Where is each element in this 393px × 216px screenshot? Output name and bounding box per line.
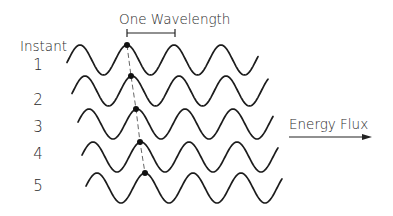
- crest-marker-2: [128, 73, 134, 79]
- wave-diagram: One Wavelength Instant 1 2 3 4 5 Energy …: [0, 0, 393, 216]
- crest-marker-1: [124, 42, 130, 48]
- instant-label-2: 2: [33, 91, 43, 109]
- wave-instant-4: [82, 142, 278, 172]
- right-arrow-icon: [289, 134, 372, 140]
- wavelength-bar: [127, 29, 175, 37]
- crest-markers: [124, 42, 148, 176]
- instant-label-3: 3: [33, 118, 43, 136]
- wave-instant-3: [78, 109, 273, 139]
- crest-marker-3: [133, 106, 139, 112]
- energy-flux-label: Energy Flux: [289, 116, 368, 132]
- waves-group: [67, 45, 282, 203]
- wave-instant-1: [67, 45, 258, 75]
- crest-marker-4: [137, 139, 143, 145]
- wave-instant-5: [86, 173, 282, 203]
- instant-label-4: 4: [33, 145, 43, 163]
- wave-instant-2: [72, 76, 268, 106]
- instant-label-1: 1: [33, 56, 43, 74]
- wavelength-label: One Wavelength: [119, 11, 230, 27]
- instant-axis-label: Instant: [20, 38, 67, 54]
- instant-label-5: 5: [33, 177, 43, 195]
- crest-marker-5: [142, 170, 148, 176]
